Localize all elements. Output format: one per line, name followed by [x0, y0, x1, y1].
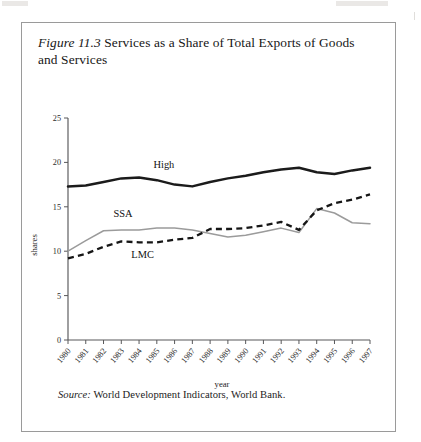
- y-tick-label: 10: [53, 247, 61, 256]
- series-label-ssa: SSA: [114, 208, 134, 219]
- y-axis-ticks: 0510152025: [53, 114, 68, 345]
- series-line-high: [68, 168, 370, 187]
- x-tick-label: 1993: [286, 347, 304, 366]
- source-text: World Development Indicators, World Bank…: [91, 389, 285, 400]
- x-tick-label: 1997: [357, 347, 375, 366]
- x-tick-label: 1983: [108, 347, 126, 366]
- scan-artifact-top-left: [2, 1, 28, 6]
- figure-number: Figure 11.3: [38, 35, 101, 50]
- x-tick-label: 1987: [179, 347, 197, 366]
- y-tick-label: 25: [53, 114, 61, 123]
- x-axis-ticks: 1980198119821983198419851986198719881989…: [55, 340, 375, 365]
- scan-artifact-edge-mark: [414, 12, 415, 20]
- x-axis-title: year: [215, 379, 230, 389]
- x-tick-label: 1988: [197, 347, 215, 366]
- y-tick-label: 15: [53, 203, 61, 212]
- series-inline-labels: HighSSALMC: [114, 159, 176, 261]
- x-tick-label: 1995: [322, 347, 340, 366]
- x-tick-label: 1990: [233, 347, 251, 366]
- x-tick-label: 1989: [215, 347, 233, 366]
- series-label-lmc: LMC: [131, 249, 154, 260]
- x-tick-label: 1996: [339, 347, 357, 366]
- y-axis-title: shares: [29, 234, 39, 256]
- y-tick-label: 5: [57, 292, 61, 301]
- x-tick-label: 1992: [268, 347, 286, 366]
- source-label: Source:: [58, 389, 91, 400]
- figure-title: Figure 11.3 Services as a Share of Total…: [38, 35, 376, 69]
- x-tick-label: 1981: [73, 347, 91, 366]
- x-tick-label: 1986: [162, 347, 180, 366]
- x-tick-label: 1991: [250, 347, 268, 366]
- x-tick-label: 1982: [91, 347, 109, 366]
- x-tick-label: 1984: [126, 346, 144, 365]
- x-tick-label: 1980: [55, 347, 73, 366]
- chart-plot-area: 0510152025 19801981198219831984198519861…: [22, 85, 397, 395]
- series-label-high: High: [154, 159, 176, 170]
- figure-box: Figure 11.3 Services as a Share of Total…: [21, 22, 396, 432]
- y-tick-label: 20: [53, 158, 61, 167]
- x-tick-label: 1985: [144, 347, 162, 366]
- scan-artifact-top-right: [336, 1, 388, 6]
- x-tick-label: 1994: [304, 346, 322, 365]
- line-chart: 0510152025 19801981198219831984198519861…: [22, 85, 397, 395]
- y-tick-label: 0: [57, 336, 61, 345]
- source-note: Source: World Development Indicators, Wo…: [58, 389, 285, 400]
- series-line-lmc: [68, 194, 370, 258]
